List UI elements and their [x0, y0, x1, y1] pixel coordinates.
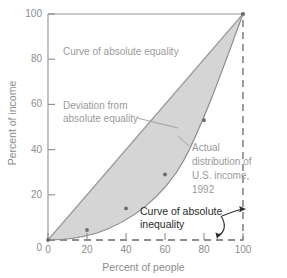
inequality-arrowhead-down: [216, 232, 223, 239]
x-tick-label-20: 20: [77, 245, 97, 255]
x-axis-title: Percent of people: [0, 262, 287, 273]
annotation-actual-line2: distribution of: [192, 156, 251, 169]
inequality-arrow-right: [222, 209, 243, 216]
y-tick-label-100: 100: [20, 9, 42, 19]
annotation-deviation-line1: Deviation from: [63, 100, 127, 113]
lorenz-curve-chart: 100 80 60 40 20 0 0 20 40 60 80 100 Perc…: [0, 0, 287, 278]
y-tick-label-60: 60: [20, 99, 42, 109]
annotation-inequality-line2: inequality: [140, 218, 184, 231]
data-point: [46, 238, 50, 242]
annotation-actual-line3: U.S. income,: [192, 170, 249, 183]
y-axis-ticks: [48, 14, 55, 240]
x-tick-label-80: 80: [194, 245, 214, 255]
annotation-actual-line4: 1992: [192, 184, 214, 197]
data-point: [202, 118, 206, 122]
y-tick-label-40: 40: [20, 145, 42, 155]
data-point: [124, 207, 128, 211]
x-tick-label-60: 60: [155, 245, 175, 255]
annotation-actual-line1: Actual: [192, 142, 220, 155]
data-point: [85, 228, 89, 232]
annotation-inequality-line1: Curve of absolute: [140, 205, 222, 218]
x-tick-label-100: 100: [232, 245, 254, 255]
x-tick-label-0: 0: [38, 245, 58, 255]
y-tick-label-80: 80: [20, 54, 42, 64]
annotation-curve-of-absolute-equality: Curve of absolute equality: [63, 46, 179, 59]
data-point: [241, 12, 245, 16]
y-axis-title-wrapper: Percent of income: [0, 0, 18, 240]
inequality-arrow-down: [219, 216, 224, 236]
chart-canvas: [0, 0, 287, 278]
x-tick-label-40: 40: [116, 245, 136, 255]
data-point: [163, 173, 167, 177]
y-axis-title: Percent of income: [6, 68, 18, 178]
annotation-deviation-line2: absolute equality: [63, 113, 138, 126]
y-tick-label-20: 20: [20, 190, 42, 200]
